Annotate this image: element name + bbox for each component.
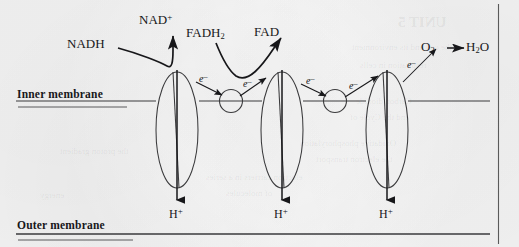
electron-arrow-1	[196, 82, 222, 95]
proton-symbol-1: H	[169, 207, 178, 221]
electron-label-3: e–	[306, 74, 314, 86]
h2o-oxygen: O	[480, 39, 489, 54]
nad-plus-base: NAD	[139, 12, 167, 27]
proton-label-1: H+	[169, 206, 183, 222]
figure-page: UNIT 5the cell and its environmentrespir…	[0, 0, 519, 247]
h2o-hydrogen: H	[466, 39, 475, 54]
proton-label-3: H+	[379, 206, 393, 222]
fadh2-label: FADH2	[186, 25, 225, 41]
nadh-to-nad-arrow	[118, 36, 173, 67]
proton-charge-2: +	[283, 206, 288, 216]
electron-charge-5: –	[411, 58, 415, 67]
fadh2-to-fad-arrow	[216, 38, 281, 78]
fadh2-base: FADH	[186, 25, 220, 40]
o2-subscript: 2	[430, 45, 434, 55]
electron-charge-4: –	[353, 79, 357, 88]
fadh2-subscript: 2	[220, 31, 224, 41]
o2-base: O	[421, 39, 430, 54]
proton-charge-1: +	[178, 206, 183, 216]
inner-membrane-label: Inner membrane	[17, 88, 103, 100]
o2-label: O2	[421, 39, 435, 55]
electron-label-5: e–	[407, 58, 415, 70]
electron-charge-3: –	[310, 74, 314, 83]
proton-symbol-3: H	[379, 207, 388, 221]
h2o-label: H2O	[466, 39, 489, 55]
proton-label-2: H+	[274, 206, 288, 222]
proton-symbol-2: H	[274, 207, 283, 221]
outer-membrane-label: Outer membrane	[17, 219, 105, 231]
electron-arrow-3	[301, 84, 326, 96]
nad-plus-superscript: +	[167, 12, 172, 22]
electron-charge-1: –	[203, 72, 207, 81]
proton-charge-3: +	[388, 206, 393, 216]
electron-label-4: e–	[349, 79, 357, 91]
electron-label-1: e–	[199, 72, 207, 84]
fad-label: FAD	[254, 24, 279, 40]
electron-label-2: e–	[243, 77, 251, 89]
electron-charge-2: –	[247, 77, 251, 86]
nadh-label: NADH	[67, 36, 105, 52]
nad-plus-label: NAD+	[139, 12, 172, 28]
